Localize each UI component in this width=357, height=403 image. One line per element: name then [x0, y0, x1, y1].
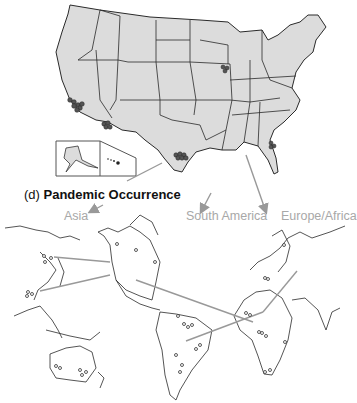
world-spread-lines [40, 257, 297, 341]
occurrence-dots [26, 243, 287, 377]
world-coastlines [5, 215, 345, 400]
